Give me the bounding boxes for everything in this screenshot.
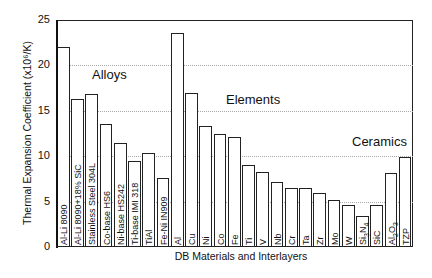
x-axis-label: DB Materials and Interlayers <box>156 250 326 262</box>
bar <box>214 134 227 248</box>
bar <box>228 137 241 247</box>
x-axis <box>56 246 413 247</box>
bar <box>199 126 212 247</box>
bar-label: Nb <box>273 233 283 245</box>
y-axis-label: Thermal Expansion Coefficient (x10⁶/K) <box>21 13 33 253</box>
bar-label: Al-Li 8090+18% SiC <box>73 164 83 245</box>
bar-label: Ti <box>244 238 254 245</box>
bar-label: W <box>344 237 354 246</box>
bar <box>256 172 269 247</box>
bar-label: Zr <box>315 237 325 246</box>
bar-label: V <box>258 239 268 245</box>
elements-annotation: Elements <box>226 92 280 107</box>
bar <box>185 93 198 247</box>
y-axis <box>56 20 58 248</box>
bar-label: Fe <box>230 234 240 245</box>
bar <box>171 33 184 247</box>
bar-label: Co <box>216 233 226 245</box>
ceramics-annotation: Ceramics <box>352 134 407 149</box>
bar-label: Cu <box>187 233 197 245</box>
bar-label: Ta <box>301 235 311 245</box>
gridline <box>57 111 413 112</box>
bar-label: TiAl <box>144 230 154 245</box>
bar-label: Ni <box>201 237 211 246</box>
bar-label: Mo <box>330 232 340 245</box>
bar-label: Al <box>173 237 183 245</box>
bar-label: SiC <box>372 230 382 245</box>
bar-label: Co-base HS6 <box>102 191 112 245</box>
bar-label: Fe-Ni IN909 <box>159 196 169 245</box>
bar-label: Cr <box>287 236 297 246</box>
alloys-annotation: Alloys <box>92 67 127 82</box>
bar-label: Stainless Steel 304L <box>87 163 97 245</box>
bar-label: Ti-base IMI 318 <box>130 183 140 245</box>
bar-label: Ni-base HS242 <box>116 184 126 245</box>
bar <box>242 165 255 247</box>
bar-label: TZP <box>401 228 411 245</box>
bar-label: Al-Li 8090 <box>59 204 69 245</box>
